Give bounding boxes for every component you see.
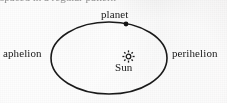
- sun-label: Sun: [115, 62, 132, 73]
- planet-dot-icon: [124, 22, 129, 27]
- aphelion-label: aphelion: [3, 48, 42, 59]
- planet-label: planet: [101, 9, 128, 20]
- orbit-ellipse: [51, 22, 167, 94]
- orbit-diagram: spaced in a regular pattern planet aphel…: [0, 0, 227, 103]
- perihelion-label: perihelion: [172, 48, 218, 59]
